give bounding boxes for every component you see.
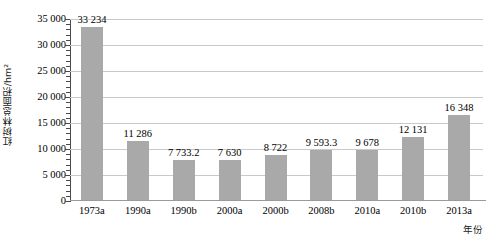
- gridline: [70, 71, 483, 72]
- bar-chart: 红树林总面积/hm² 05 00010 00015 00020 00025 00…: [0, 0, 491, 252]
- bar-value-label: 7 733.2: [168, 148, 200, 159]
- y-axis-tick-label: 0: [18, 196, 66, 207]
- y-axis-minor-tick: [66, 118, 70, 119]
- y-axis-minor-tick: [66, 159, 70, 160]
- bar: [356, 150, 378, 200]
- y-axis-tick-label: 5 000: [18, 170, 66, 181]
- bar: [173, 160, 195, 200]
- y-axis-major-tick: [65, 149, 70, 150]
- y-axis-tick-label: 35 000: [18, 14, 66, 25]
- y-axis-minor-tick: [66, 81, 70, 82]
- bar-value-label: 12 131: [399, 125, 428, 136]
- x-axis-tick-label: 2008b: [308, 206, 334, 217]
- x-axis-tick-label: 2000a: [217, 206, 243, 217]
- y-axis-minor-tick: [66, 170, 70, 171]
- y-axis-minor-tick: [66, 87, 70, 88]
- y-axis-major-tick: [65, 123, 70, 124]
- y-axis-minor-tick: [66, 185, 70, 186]
- bar-value-label: 9 593.3: [306, 138, 338, 149]
- bar: [81, 27, 103, 200]
- y-axis-major-tick: [65, 175, 70, 176]
- y-axis-minor-tick: [66, 165, 70, 166]
- bar-value-label: 9 678: [355, 138, 379, 149]
- x-axis-tick-label: 2013a: [446, 206, 472, 217]
- x-axis-line: [70, 200, 486, 201]
- y-axis-major-tick: [65, 71, 70, 72]
- y-axis-minor-tick: [66, 29, 70, 30]
- bar-value-label: 33 234: [78, 15, 107, 26]
- y-axis-minor-tick: [66, 133, 70, 134]
- x-axis-tick-label: 1990a: [125, 206, 151, 217]
- bar: [448, 115, 470, 200]
- y-axis-minor-tick: [66, 50, 70, 51]
- gridline: [70, 19, 483, 20]
- bar: [402, 137, 424, 200]
- y-axis-minor-tick: [66, 139, 70, 140]
- y-axis-minor-tick: [66, 144, 70, 145]
- y-axis-minor-tick: [66, 113, 70, 114]
- y-axis-tick-label: 30 000: [18, 40, 66, 51]
- gridline: [70, 97, 483, 98]
- y-axis-minor-tick: [66, 102, 70, 103]
- y-axis-minor-tick: [66, 76, 70, 77]
- x-axis-tick-label: 2010b: [400, 206, 426, 217]
- y-axis-minor-tick: [66, 154, 70, 155]
- y-axis-minor-tick: [66, 128, 70, 129]
- y-axis-tick-label: 10 000: [18, 144, 66, 155]
- y-axis-minor-tick: [66, 35, 70, 36]
- y-axis-major-tick: [65, 97, 70, 98]
- y-axis-minor-tick: [66, 55, 70, 56]
- y-axis-tick-labels: 05 00010 00015 00020 00025 00030 00035 0…: [16, 0, 66, 252]
- y-axis-minor-tick: [66, 191, 70, 192]
- y-axis-tick-label: 25 000: [18, 66, 66, 77]
- bar-value-label: 11 286: [124, 129, 153, 140]
- y-axis-major-tick: [65, 19, 70, 20]
- y-axis-minor-tick: [66, 24, 70, 25]
- bar-value-label: 16 348: [445, 103, 474, 114]
- x-axis-tick-label: 1990b: [171, 206, 197, 217]
- y-axis-title-text: 红树林总面积/hm²: [3, 64, 13, 146]
- y-axis-tick-label: 20 000: [18, 92, 66, 103]
- bar-value-label: 8 722: [264, 143, 288, 154]
- x-axis-title: 年份: [463, 225, 483, 235]
- plot-area: 33 23411 2867 733.27 6308 7229 593.39 67…: [70, 19, 483, 201]
- y-axis-minor-tick: [66, 66, 70, 67]
- bar: [310, 150, 332, 200]
- y-axis-major-tick: [65, 201, 70, 202]
- plot-inner: 33 23411 2867 733.27 6308 7229 593.39 67…: [70, 19, 483, 201]
- y-axis-major-tick: [65, 45, 70, 46]
- bar: [219, 160, 241, 200]
- x-axis-tick-label: 2000b: [262, 206, 288, 217]
- x-axis-tick-labels: 1973a1990a1990b2000a2000b2008b2010a2010b…: [70, 206, 483, 226]
- y-axis-minor-tick: [66, 107, 70, 108]
- y-axis-minor-tick: [66, 180, 70, 181]
- x-axis-tick-label: 2010a: [354, 206, 380, 217]
- y-axis-minor-tick: [66, 196, 70, 197]
- y-axis-minor-tick: [66, 40, 70, 41]
- gridline: [70, 45, 483, 46]
- y-axis-tick-label: 15 000: [18, 118, 66, 129]
- y-axis-minor-tick: [66, 92, 70, 93]
- bar: [265, 155, 287, 200]
- x-axis-tick-label: 1973a: [79, 206, 105, 217]
- y-axis-title: 红树林总面积/hm²: [0, 0, 16, 210]
- y-axis-minor-tick: [66, 61, 70, 62]
- bar-value-label: 7 630: [218, 148, 242, 159]
- bar: [127, 141, 149, 200]
